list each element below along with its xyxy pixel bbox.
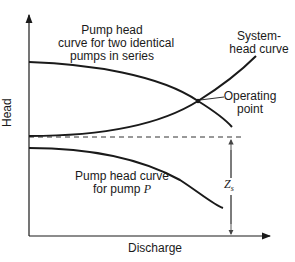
- static-head-var: Z: [224, 177, 231, 191]
- series-curve-label-line3: pumps in series: [58, 50, 166, 63]
- system-curve-label-line2: head curve: [226, 43, 292, 56]
- single-pump-curve-label-prefix: for pump: [93, 182, 144, 196]
- system-curve-label: System- head curve: [226, 30, 292, 56]
- series-pump-head-curve: [29, 62, 232, 127]
- single-pump-curve-label-line2: for pump P: [74, 183, 170, 196]
- operating-point-label-line2: point: [222, 103, 278, 116]
- y-axis-label: Head: [1, 98, 14, 127]
- series-curve-label: Pump head curve for two identical pumps …: [58, 24, 166, 63]
- static-head-label: Zs: [223, 178, 235, 195]
- operating-point-marker: [196, 99, 200, 103]
- static-head-subscript: s: [231, 184, 234, 193]
- operating-point-label: Operating point: [222, 90, 278, 116]
- pump-variable-p: P: [144, 182, 151, 196]
- x-axis-label: Discharge: [128, 242, 182, 255]
- single-pump-curve-label: Pump head curve for pump P: [74, 170, 170, 196]
